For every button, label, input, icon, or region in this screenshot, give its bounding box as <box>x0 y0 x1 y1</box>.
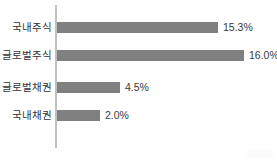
corner-artifact <box>247 149 273 158</box>
value-label-global-stocks: 16.0% <box>249 49 277 62</box>
bar-row: 글로벌주식 16.0% <box>0 50 277 62</box>
category-label-domestic-stocks: 국내주식 <box>12 21 52 34</box>
category-label-domestic-bonds: 국내채권 <box>12 109 52 122</box>
bar-global-bonds <box>57 82 120 93</box>
category-label-global-stocks: 글로벌주식 <box>2 49 52 62</box>
bar-global-stocks <box>57 50 244 61</box>
value-label-domestic-bonds: 2.0% <box>105 109 129 122</box>
category-label-global-bonds: 글로벌채권 <box>2 81 52 94</box>
bar-domestic-bonds <box>57 110 100 121</box>
bar-row: 국내채권 2.0% <box>0 110 277 122</box>
bar-domestic-stocks <box>57 22 218 33</box>
horizontal-bar-chart: 국내주식 15.3% 글로벌주식 16.0% 글로벌채권 4.5% 국내채권 2… <box>0 0 277 160</box>
value-label-domestic-stocks: 15.3% <box>223 21 253 34</box>
bar-row: 국내주식 15.3% <box>0 22 277 34</box>
bar-row: 글로벌채권 4.5% <box>0 82 277 94</box>
value-label-global-bonds: 4.5% <box>125 81 149 94</box>
